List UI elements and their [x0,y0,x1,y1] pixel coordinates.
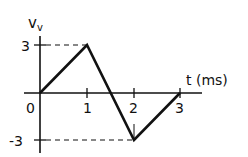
chart-canvas: v v 3 -3 0 1 2 3 t (ms) [0,0,248,157]
y-axis-label-subscript: v [37,22,43,33]
x-axis-label: t (ms) [186,72,228,88]
y-tick-label-pos: 3 [21,38,30,54]
waveform-chart: v v 3 -3 0 1 2 3 t (ms) [0,0,248,157]
y-tick-label-neg: -3 [9,133,23,149]
x-tick-label-3: 3 [175,100,184,116]
y-axis-label: v [28,14,37,32]
x-tick-label-0: 0 [26,100,35,116]
x-tick-label-1: 1 [83,100,92,116]
x-tick-label-2: 2 [129,100,138,116]
